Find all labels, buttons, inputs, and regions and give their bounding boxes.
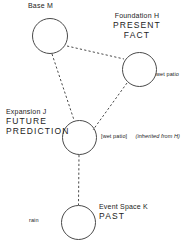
label-foundation-h: Foundation H PRESENT FACT: [113, 12, 161, 40]
node-role-foundation-fact: FACT: [113, 30, 161, 40]
node-name-base: Base M: [28, 2, 53, 10]
annotation-rain: rain: [29, 217, 39, 223]
annotation-inherited-from-h: (inherited from H): [135, 133, 180, 139]
label-base-m: Base M: [28, 2, 53, 10]
annotation-wet-patio: wet patio: [156, 71, 179, 77]
edge-foundation-expansion: [93, 83, 127, 130]
node-event-space-k[interactable]: [61, 205, 96, 240]
annotation-inherited-group: [wet patio] (inherited from H): [101, 133, 180, 139]
node-base-m[interactable]: [32, 18, 68, 54]
edge-expansion-event: [79, 155, 80, 205]
label-event-space-k: Event Space K PAST: [99, 203, 148, 221]
node-name-foundation: Foundation H: [113, 12, 161, 20]
node-role-foundation-present: PRESENT: [113, 20, 161, 30]
diagram-canvas: Base M Foundation H PRESENT FACT Expansi…: [0, 0, 189, 248]
node-foundation-h[interactable]: [122, 52, 157, 87]
node-name-event: Event Space K: [99, 203, 148, 211]
node-role-expansion-future: FUTURE: [6, 116, 69, 126]
label-expansion-j: Expansion J FUTURE PREDICTION: [6, 108, 69, 136]
node-role-event-past: PAST: [99, 211, 148, 221]
edge-base-foundation: [67, 46, 124, 59]
node-role-expansion-prediction: PREDICTION: [6, 126, 69, 136]
node-name-expansion: Expansion J: [6, 108, 69, 116]
annotation-wet-patio-bracketed: [wet patio]: [101, 133, 127, 139]
